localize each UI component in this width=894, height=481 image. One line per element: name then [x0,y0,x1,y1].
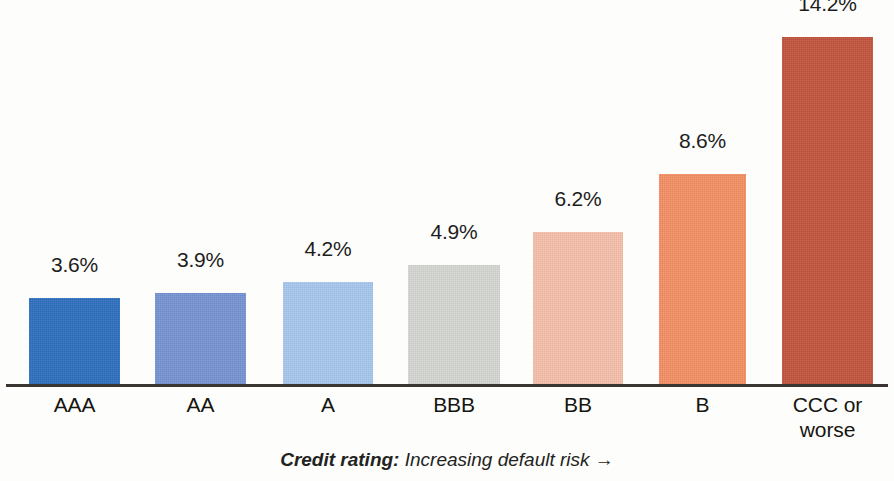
caption-key: Credit rating: [280,449,399,470]
x-axis-caption: Credit rating: Increasing default risk → [0,449,894,471]
category-label-ccc-line1: CCC or [793,393,862,416]
value-label-bb: 6.2% [554,187,601,211]
value-label-aa: 3.9% [177,248,224,272]
bar-group-bbb: 4.9% [408,0,500,388]
category-label-aaa: AAA [29,392,120,417]
bar-group-aaa: 3.6% [29,0,120,388]
bar-group-b: 8.6% [659,0,746,388]
bar-chart: 3.6% 3.9% 4.2% 4.9% 6.2% 8.6% [0,0,894,481]
plot-area: 3.6% 3.9% 4.2% 4.9% 6.2% 8.6% [0,0,894,388]
category-label-ccc: CCC or worse [767,392,888,442]
category-label-aa: AA [155,392,246,417]
category-label-a: A [283,392,373,417]
value-label-aaa: 3.6% [51,253,98,277]
category-label-ccc-line2: worse [800,418,856,441]
bar-group-ccc: 14.2% [782,0,873,388]
bar-b[interactable] [659,174,746,385]
bar-group-aa: 3.9% [155,0,246,388]
bar-bbb[interactable] [408,265,500,385]
bar-ccc[interactable] [782,37,873,385]
caption-text: Increasing default risk [405,449,590,470]
bar-bb[interactable] [533,232,623,385]
category-axis: AAA AA A BBB BB B CCC or worse [0,392,894,446]
value-label-a: 4.2% [304,237,351,261]
category-label-bb: BB [533,392,623,417]
category-label-bbb: BBB [408,392,500,417]
bar-group-bb: 6.2% [533,0,623,388]
bar-aaa[interactable] [29,298,120,385]
bar-group-a: 4.2% [283,0,373,388]
bar-aa[interactable] [155,293,246,385]
right-arrow-icon: → [595,449,614,470]
value-label-b: 8.6% [679,129,726,153]
value-label-bbb: 4.9% [430,220,477,244]
x-axis-baseline [6,384,888,387]
category-label-b: B [659,392,746,417]
bar-a[interactable] [283,282,373,385]
value-label-ccc: 14.2% [798,0,857,16]
